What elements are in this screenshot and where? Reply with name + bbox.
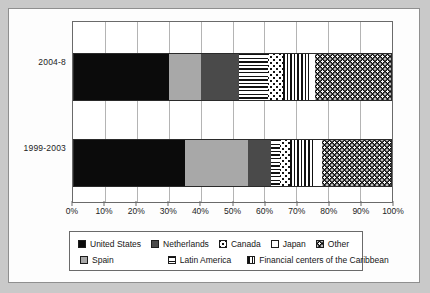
legend-label: Other: [328, 239, 349, 249]
legend-item-united-states[interactable]: United States: [78, 239, 141, 249]
legend-item-japan[interactable]: Japan: [271, 239, 306, 249]
chart-legend: United StatesNetherlandsCanadaJapanOther…: [69, 231, 363, 271]
bar-segment-netherlands: [248, 139, 270, 187]
x-tick-label-50: 50%: [224, 206, 241, 216]
legend-swatch-icon: [271, 240, 279, 248]
legend-label: Netherlands: [163, 239, 209, 249]
stacked-bar-1999-2003: [73, 139, 392, 187]
legend-swatch-icon: [151, 240, 159, 248]
legend-label: Japan: [283, 239, 306, 249]
legend-label: United States: [90, 239, 141, 249]
stacked-bar-2004-8: [73, 53, 392, 101]
legend-swatch-icon: [78, 240, 86, 248]
bar-segment-financial-centers-of-the-caribbean: [290, 139, 316, 187]
x-tick-label-70: 70%: [288, 206, 305, 216]
legend-item-netherlands[interactable]: Netherlands: [151, 239, 209, 249]
x-tick-label-0: 0%: [66, 206, 78, 216]
legend-label: Spain: [92, 255, 114, 265]
bar-segment-other: [322, 139, 392, 187]
x-tick-label-20: 20%: [128, 206, 145, 216]
bar-segment-other: [315, 53, 392, 101]
legend-label: Financial centers of the Caribbean: [259, 255, 388, 265]
legend-item-financial-centers-of-the-caribbean[interactable]: Financial centers of the Caribbean: [247, 255, 388, 265]
legend-item-other[interactable]: Other: [316, 239, 349, 249]
bar-segment-canada: [280, 139, 290, 187]
legend-label: Canada: [231, 239, 261, 249]
category-label-top: 2004-8: [0, 57, 66, 67]
bar-segment-spain: [169, 53, 201, 101]
legend-swatch-icon: [219, 240, 227, 248]
bar-segment-united-states: [73, 139, 185, 187]
x-tick-label-100: 100%: [382, 206, 404, 216]
legend-swatch-icon: [316, 240, 324, 248]
bar-segment-latin-america: [239, 53, 268, 101]
plot-area: [72, 21, 393, 203]
x-axis-ticks: 0%10%20%30%40%50%60%70%80%90%100%: [72, 206, 393, 220]
bar-segment-financial-centers-of-the-caribbean: [283, 53, 309, 101]
x-tick-label-90: 90%: [352, 206, 369, 216]
x-tick-label-10: 10%: [96, 206, 113, 216]
legend-item-latin-america[interactable]: Latin America: [168, 255, 232, 265]
bar-segment-canada: [268, 53, 284, 101]
category-label-bottom: 1999-2003: [0, 143, 66, 153]
bar-segment-latin-america: [271, 139, 281, 187]
legend-swatch-icon: [247, 256, 255, 264]
legend-swatch-icon: [80, 256, 88, 264]
bar-segment-spain: [185, 139, 249, 187]
x-tick-label-60: 60%: [256, 206, 273, 216]
x-tick-label-30: 30%: [160, 206, 177, 216]
legend-label: Latin America: [180, 255, 232, 265]
legend-row-1: United StatesNetherlandsCanadaJapanOther: [78, 236, 354, 252]
legend-swatch-icon: [168, 256, 176, 264]
bar-segment-netherlands: [201, 53, 239, 101]
legend-row-2: SpainLatin AmericaFinancial centers of t…: [78, 252, 354, 268]
legend-item-spain[interactable]: Spain: [80, 255, 114, 265]
bar-segment-united-states: [73, 53, 169, 101]
chart-figure: 2004-8 1999-2003 0%10%20%30%40%50%60%70%…: [8, 8, 420, 283]
legend-item-canada[interactable]: Canada: [219, 239, 261, 249]
x-tick-label-40: 40%: [192, 206, 209, 216]
x-tick-label-80: 80%: [320, 206, 337, 216]
